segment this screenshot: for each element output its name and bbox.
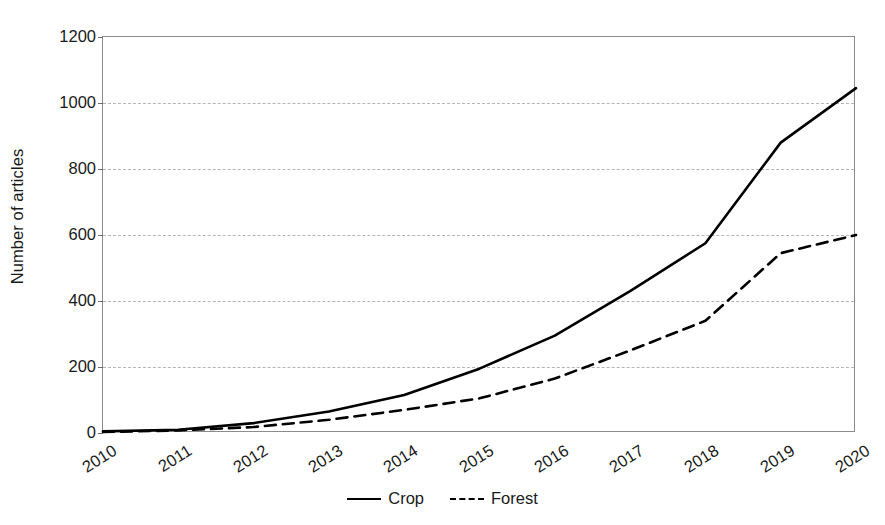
x-axis-tick-label: 2018 <box>667 441 723 486</box>
x-axis-tick-label: 2012 <box>215 441 271 486</box>
y-axis-tick-mark <box>98 433 103 434</box>
x-axis-tick-label: 2010 <box>64 441 120 486</box>
x-axis-tick-label: 2013 <box>290 441 346 486</box>
x-axis-tick-label: 2017 <box>591 441 647 486</box>
x-axis-tick-label: 2020 <box>817 441 873 486</box>
legend-item-label: Forest <box>491 489 538 508</box>
y-axis-tick-label: 400 <box>26 292 96 308</box>
series-line-crop <box>103 88 856 431</box>
dashed-line-icon <box>450 498 484 500</box>
legend-item[interactable]: Forest <box>450 489 538 508</box>
x-axis-tick-label: 2016 <box>516 441 572 486</box>
line-chart: Number of articles 020040060080010001200… <box>0 0 885 525</box>
y-axis-title-text: Number of articles <box>9 148 28 284</box>
x-axis-tick-label: 2014 <box>365 441 421 486</box>
y-axis-tick-label: 1000 <box>26 94 96 110</box>
x-axis-tick-label: 2011 <box>140 441 196 486</box>
legend-item[interactable]: Crop <box>347 489 424 508</box>
y-axis-tick-label: 0 <box>26 424 96 440</box>
series-line-forest <box>103 235 856 432</box>
plot-area <box>102 36 855 432</box>
y-axis-tick-label: 800 <box>26 160 96 176</box>
y-axis-tick-label: 1200 <box>26 28 96 44</box>
x-axis-tick-label: 2019 <box>742 441 798 486</box>
x-axis-tick-label: 2015 <box>441 441 497 486</box>
chart-legend: CropForest <box>0 489 885 508</box>
y-axis-tick-label: 600 <box>26 226 96 242</box>
series-lines <box>103 37 856 433</box>
y-axis-tick-label: 200 <box>26 358 96 374</box>
solid-line-icon <box>347 498 381 500</box>
legend-item-label: Crop <box>388 489 424 508</box>
